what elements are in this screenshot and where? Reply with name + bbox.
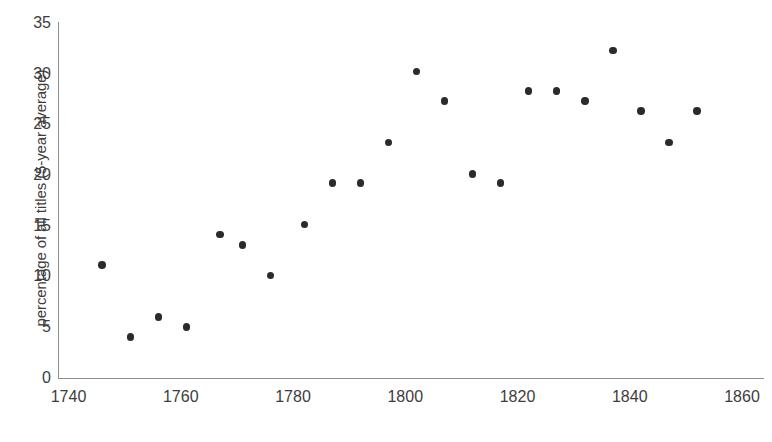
data-point — [267, 272, 274, 279]
y-tick-label: 10 — [12, 267, 58, 285]
x-tick-label: 1760 — [163, 388, 199, 406]
data-point — [637, 107, 644, 114]
data-point — [525, 87, 532, 94]
data-point — [239, 241, 246, 248]
data-point — [98, 261, 105, 268]
y-tick-label: 20 — [12, 166, 58, 184]
data-point — [497, 179, 504, 186]
x-axis-line — [58, 378, 764, 379]
x-tick-label: 1840 — [612, 388, 648, 406]
data-point — [155, 313, 162, 320]
data-point — [301, 221, 308, 228]
data-point — [553, 87, 560, 94]
data-point — [413, 68, 420, 75]
data-point — [581, 97, 588, 104]
x-tick-label: 1780 — [275, 388, 311, 406]
y-tick-label: 15 — [12, 217, 58, 235]
data-point — [469, 170, 476, 177]
data-point — [357, 179, 364, 186]
y-tick-label: 0 — [12, 369, 58, 387]
data-point — [183, 323, 190, 330]
data-point — [216, 231, 223, 238]
plot-area — [0, 0, 772, 442]
data-point — [693, 107, 700, 114]
x-tick-label: 1740 — [51, 388, 87, 406]
data-point — [665, 139, 672, 146]
data-point — [609, 47, 616, 54]
y-tick-label: 30 — [12, 65, 58, 83]
scatter-chart: percentage of all titles (5-year average… — [0, 0, 772, 442]
x-tick-label: 1860 — [724, 388, 760, 406]
data-point — [441, 97, 448, 104]
y-axis-tick-labels: 05101520253035 — [0, 0, 58, 442]
y-tick-label: 5 — [12, 318, 58, 336]
data-point — [329, 179, 336, 186]
x-tick-label: 1820 — [500, 388, 536, 406]
y-tick-label: 25 — [12, 115, 58, 133]
y-axis-line — [58, 22, 59, 379]
y-tick-label: 35 — [12, 14, 58, 32]
data-point — [127, 333, 134, 340]
data-point — [385, 139, 392, 146]
x-tick-label: 1800 — [387, 388, 423, 406]
